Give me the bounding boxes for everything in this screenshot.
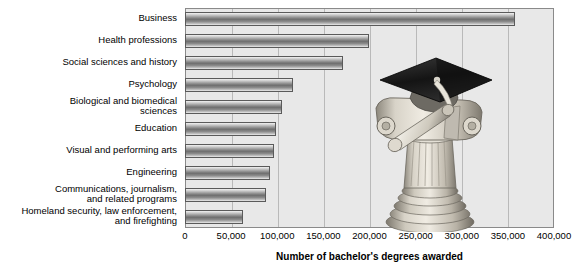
- bar: [185, 78, 293, 92]
- bar-row: [185, 140, 274, 162]
- category-label: Social sciences and history: [0, 57, 181, 68]
- bar-row: [185, 184, 266, 206]
- category-label: Psychology: [0, 79, 181, 90]
- x-tick-label: 150,000: [306, 230, 340, 241]
- x-tick-label: 300,000: [445, 230, 479, 241]
- category-label: Homeland security, law enforcement, and …: [0, 206, 181, 227]
- x-tick-label: 200,000: [352, 230, 386, 241]
- category-axis-labels: BusinessHealth professionsSocial science…: [0, 8, 181, 228]
- bar: [185, 100, 282, 114]
- bar-row: [185, 118, 276, 140]
- bar-row: [185, 96, 282, 118]
- bar-row: [185, 74, 293, 96]
- x-tick-label: 0: [182, 230, 187, 241]
- bar: [185, 122, 276, 136]
- bar: [185, 144, 274, 158]
- bars-layer: [185, 8, 554, 228]
- category-label: Education: [0, 123, 181, 134]
- bar-row: [185, 8, 515, 30]
- bar: [185, 188, 266, 202]
- category-label: Biological and biomedical sciences: [0, 96, 181, 117]
- x-tick-label: 350,000: [491, 230, 525, 241]
- bar-chart: BusinessHealth professionsSocial science…: [0, 0, 582, 273]
- category-label: Visual and performing arts: [0, 145, 181, 156]
- bar-row: [185, 162, 270, 184]
- category-label: Health professions: [0, 35, 181, 46]
- bar-row: [185, 30, 369, 52]
- bar: [185, 12, 515, 26]
- x-axis-title: Number of bachelor's degrees awarded: [185, 251, 554, 262]
- category-label: Engineering: [0, 167, 181, 178]
- category-label: Business: [0, 13, 181, 24]
- x-tick-label: 50,000: [217, 230, 246, 241]
- bar: [185, 34, 369, 48]
- x-tick-label: 250,000: [398, 230, 432, 241]
- bar: [185, 166, 270, 180]
- bar-row: [185, 52, 343, 74]
- bar-row: [185, 206, 243, 228]
- x-tick-label: 400,000: [537, 230, 571, 241]
- x-tick-label: 100,000: [260, 230, 294, 241]
- bar: [185, 56, 343, 70]
- x-axis-tick-labels: 050,000100,000150,000200,000250,000300,0…: [185, 230, 554, 244]
- category-label: Communications, journalism, and related …: [0, 184, 181, 205]
- bar: [185, 210, 243, 224]
